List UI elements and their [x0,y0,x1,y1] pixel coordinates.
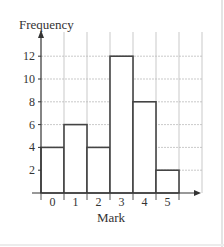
frame-edge-bottom [0,244,224,246]
x-tick-label: 5 [165,195,171,209]
x-axis-label: Mark [97,210,126,225]
y-axis-label: Frequency [19,17,74,32]
histogram-bar [133,102,156,193]
histogram-bar [110,56,133,193]
y-tick-label: 8 [29,95,35,109]
y-tick-label: 2 [29,163,35,177]
histogram-bar [156,170,179,193]
y-tick-label: 6 [29,118,35,132]
y-tick-label: 12 [23,49,35,63]
histogram-bar [64,125,87,193]
y-tick-label: 10 [23,72,35,86]
y-tick-labels: 24681012 [23,49,35,177]
x-tick-label: 4 [142,195,148,209]
x-axis-arrow-icon [194,190,201,196]
frame-edge-right [221,0,223,247]
x-tick-label: 0 [50,195,56,209]
x-tick-label: 1 [73,195,79,209]
histogram-chart: 24681012 012345 Frequency Mark [0,0,224,247]
histogram-bar [41,147,64,193]
x-tick-label: 2 [96,195,102,209]
x-tick-label: 3 [119,195,125,209]
y-tick-label: 4 [29,140,35,154]
histogram-bar [87,147,110,193]
